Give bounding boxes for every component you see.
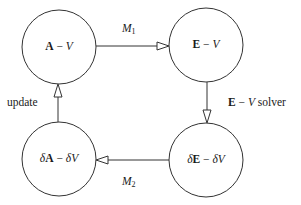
node-e-v-ital: V — [212, 38, 219, 50]
edge-m2-script: M — [122, 175, 132, 187]
edge-m1-arrow — [96, 42, 169, 50]
node-e-v-label: E − V — [193, 39, 220, 51]
node-a-v-sep: − — [54, 40, 66, 52]
node-da-dv-sep: − — [54, 152, 66, 164]
node-a-v-label: A − V — [45, 41, 73, 53]
edge-m2-sub: 2 — [132, 180, 136, 189]
node-da-dv-ital: V — [71, 152, 78, 164]
node-de-dv-sep: − — [200, 153, 212, 165]
edge-solver-sep: − — [236, 96, 248, 108]
edge-solver-rest: solver — [255, 96, 286, 108]
node-de-dv-bold: E — [193, 153, 201, 165]
node-de-dv-label: δE − δV — [187, 154, 225, 166]
edge-m2-arrow — [96, 156, 169, 164]
edge-solver-label: E − V solver — [228, 97, 286, 109]
edge-update-arrow — [54, 84, 62, 122]
edge-solver-bold: E — [228, 96, 236, 108]
edge-update-label: update — [7, 97, 38, 109]
edge-solver-arrow — [203, 82, 211, 123]
edge-update-text: update — [7, 96, 38, 108]
node-e-v-bold: E — [193, 38, 201, 50]
node-da-dv-bold: A — [45, 152, 53, 164]
open-arrowhead-icon — [54, 84, 62, 97]
edge-m1-label: M1 — [122, 23, 136, 36]
node-de-dv-ital: V — [218, 153, 225, 165]
edge-solver-ital: V — [248, 96, 255, 108]
open-arrowhead-icon — [203, 110, 211, 123]
node-e-v-sep: − — [200, 38, 212, 50]
node-da-dv-label: δA − δV — [40, 153, 78, 165]
node-a-v-ital: V — [66, 40, 73, 52]
edge-m1-sub: 1 — [132, 27, 136, 36]
edge-m2-label: M2 — [122, 176, 136, 189]
open-arrowhead-icon — [96, 156, 108, 164]
edge-m1-script: M — [122, 22, 132, 34]
open-arrowhead-icon — [157, 42, 169, 50]
